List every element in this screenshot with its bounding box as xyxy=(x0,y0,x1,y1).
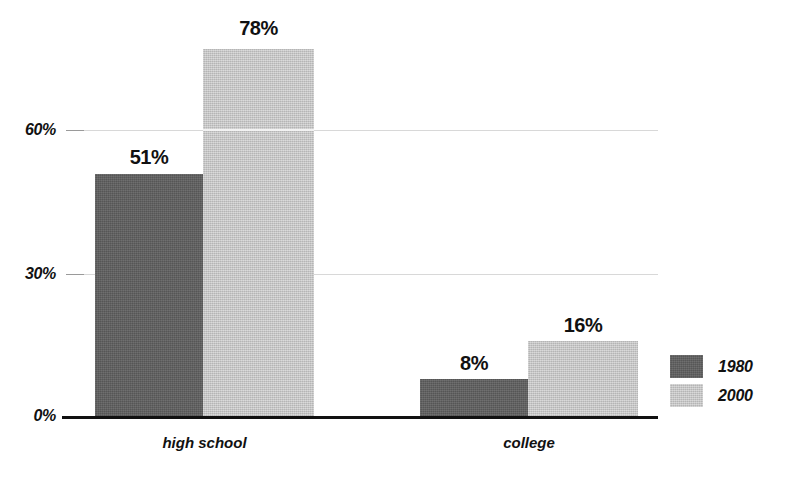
bar-high-school-2000[interactable] xyxy=(203,49,314,417)
legend-label-2000: 2000 xyxy=(718,387,753,405)
value-label-high-school-1980: 51% xyxy=(95,146,203,169)
gridline-60 xyxy=(84,130,658,131)
tick-stub-60 xyxy=(66,130,84,131)
x-axis-label-college: college xyxy=(420,434,638,451)
bar-chart: 60% 30% 0% 51% 78% 8% 16% high school co… xyxy=(0,0,793,482)
x-axis-baseline xyxy=(62,416,658,419)
bar-college-2000[interactable] xyxy=(528,341,638,417)
tick-stub-30 xyxy=(66,274,84,275)
legend: 1980 2000 xyxy=(670,352,753,410)
value-label-college-2000: 16% xyxy=(528,314,638,337)
x-axis-label-high-school: high school xyxy=(95,434,314,451)
value-label-college-1980: 8% xyxy=(420,352,528,375)
legend-swatch-2000 xyxy=(670,384,703,407)
plot-area: 60% 30% 0% 51% 78% 8% 16% high school co… xyxy=(0,0,793,482)
legend-item-1980[interactable]: 1980 xyxy=(670,352,753,381)
legend-item-2000[interactable]: 2000 xyxy=(670,381,753,410)
y-axis-label-60: 60% xyxy=(25,121,56,139)
y-axis-label-30: 30% xyxy=(25,265,56,283)
y-axis-label-0: 0% xyxy=(33,407,56,425)
gridline-overlay-60 xyxy=(203,129,314,131)
legend-label-1980: 1980 xyxy=(718,358,753,376)
value-label-high-school-2000: 78% xyxy=(203,17,314,40)
legend-swatch-1980 xyxy=(670,355,703,378)
bar-college-1980[interactable] xyxy=(420,379,528,417)
bar-high-school-1980[interactable] xyxy=(95,174,203,417)
